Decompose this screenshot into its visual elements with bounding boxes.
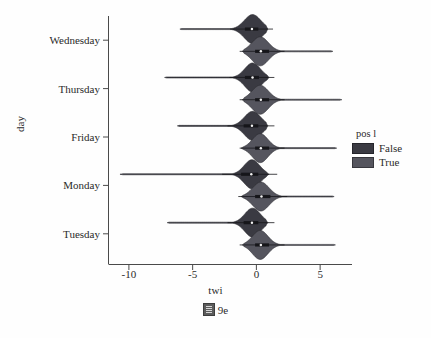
legend-swatch-false xyxy=(352,143,374,154)
legend-title: pos l xyxy=(356,128,428,139)
x-tick-label-2: 0 xyxy=(254,268,260,280)
legend-entries: FalseTrue xyxy=(352,142,428,168)
y-tick-label-friday: Friday xyxy=(22,131,100,143)
x-axis-ticks xyxy=(129,265,320,271)
violin-plot-figure: WednesdayThursdayFridayMondayTuesday -10… xyxy=(0,0,431,338)
legend: pos l FalseTrue xyxy=(352,128,428,170)
legend-entry-false[interactable]: False xyxy=(352,142,428,154)
legend-swatch-true xyxy=(352,157,374,168)
missing-glyph-box-icon xyxy=(203,303,215,316)
violin-shapes xyxy=(120,15,342,260)
y-tick-label-thursday: Thursday xyxy=(22,83,100,95)
y-tick-label-wednesday: Wednesday xyxy=(22,34,100,46)
x-tick-label-1: -5 xyxy=(188,268,197,280)
y-axis-title: day xyxy=(14,116,26,132)
y-tick-label-monday: Monday xyxy=(22,179,100,191)
legend-label-false: False xyxy=(379,142,402,154)
x-tick-label-3: 5 xyxy=(317,268,323,280)
x-tick-label-0: -10 xyxy=(122,268,137,280)
legend-entry-true[interactable]: True xyxy=(352,156,428,168)
legend-label-true: True xyxy=(379,156,399,168)
figure-caption: 9e xyxy=(0,303,431,316)
y-tick-label-tuesday: Tuesday xyxy=(22,228,100,240)
caption-text: 9e xyxy=(218,304,228,316)
y-axis-ticks xyxy=(103,40,109,234)
x-axis-title: twi xyxy=(0,284,431,296)
